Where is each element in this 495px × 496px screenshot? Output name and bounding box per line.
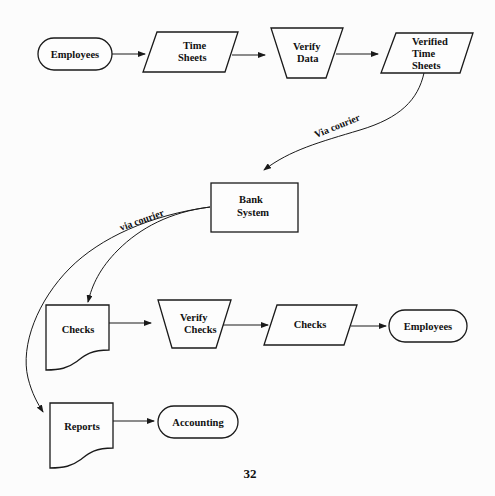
- node-checks-io: Checks: [264, 305, 357, 345]
- node-label: Verified: [412, 36, 448, 47]
- node-label: Verify: [180, 312, 208, 323]
- node-label: Bank: [239, 194, 263, 205]
- node-label: Checks: [184, 324, 217, 335]
- node-label: Sheets: [178, 52, 207, 63]
- node-label: Checks: [294, 319, 327, 330]
- node-label: Reports: [64, 421, 100, 432]
- node-bank-system: Bank System: [211, 183, 298, 232]
- node-label: Verify: [293, 41, 321, 52]
- node-employees-top: Employees: [38, 38, 112, 70]
- node-reports-document: Reports: [50, 403, 113, 468]
- node-label: Checks: [62, 324, 95, 335]
- node-verify-checks: Verify Checks: [158, 300, 231, 348]
- node-label: Employees: [51, 49, 99, 60]
- node-label: Employees: [404, 321, 452, 332]
- node-time-sheets: Time Sheets: [143, 32, 238, 72]
- flowchart-canvas: Employees Time Sheets Verify Data Verifi…: [0, 0, 495, 496]
- node-label: Accounting: [172, 417, 224, 428]
- edge-label-via-courier: Via courier: [313, 111, 362, 139]
- node-verified-time-sheets: Verified Time Sheets: [381, 33, 473, 73]
- node-verify-data: Verify Data: [271, 28, 343, 78]
- node-label: Time: [412, 48, 435, 59]
- node-label: Time: [183, 40, 206, 51]
- node-label: Data: [297, 53, 319, 64]
- node-accounting: Accounting: [158, 406, 238, 438]
- node-checks-document: Checks: [46, 305, 109, 370]
- node-employees-bottom: Employees: [389, 310, 467, 342]
- edge-label-via-courier-lower: via courier: [118, 206, 166, 232]
- node-label: System: [237, 207, 269, 218]
- node-label: Sheets: [412, 60, 441, 71]
- page-number: 32: [244, 466, 257, 481]
